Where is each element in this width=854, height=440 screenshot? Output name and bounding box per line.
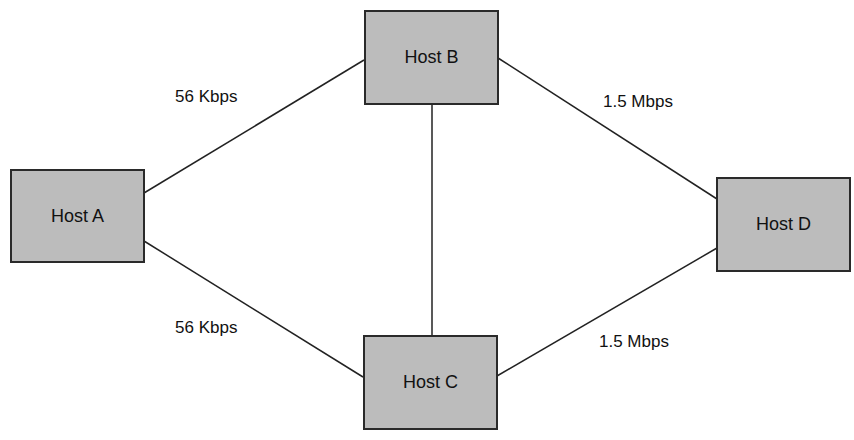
host-a-label: Host A xyxy=(51,206,104,227)
host-d-label: Host D xyxy=(756,214,811,235)
host-d: Host D xyxy=(716,177,851,272)
link-label-c-d: 1.5 Mbps xyxy=(599,332,669,352)
link-b-d xyxy=(498,58,717,199)
link-label-b-d: 1.5 Mbps xyxy=(603,92,673,112)
host-b-label: Host B xyxy=(404,47,458,68)
link-c-d xyxy=(497,248,717,376)
host-a: Host A xyxy=(10,169,145,263)
link-label-a-c: 56 Kbps xyxy=(175,318,237,338)
host-c: Host C xyxy=(363,335,498,430)
host-b: Host B xyxy=(364,10,499,105)
host-c-label: Host C xyxy=(403,372,458,393)
link-a-c xyxy=(144,241,363,377)
link-a-b xyxy=(144,60,364,193)
network-diagram: Host A Host B Host C Host D 56 Kbps 56 K… xyxy=(0,0,854,440)
link-label-a-b: 56 Kbps xyxy=(175,87,237,107)
